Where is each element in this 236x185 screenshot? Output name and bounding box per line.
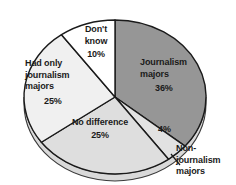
pie-label-journalism-majors: Journalism majors 36% (140, 57, 187, 95)
pie-label-non-journalism-majors-line3: majors (176, 166, 221, 178)
pie-label-no-difference: No difference 25% (62, 117, 138, 141)
pie-value-had-only-journalism-majors: 25% (44, 96, 70, 108)
pie-chart-figure: Journalism majors 36% Don't know 10% Had… (0, 0, 236, 185)
pie-label-non-journalism-majors: Non- journalism majors (176, 143, 221, 178)
pie-label-had-only-journalism-majors-line3: majors (25, 81, 70, 93)
pie-label-had-only-journalism-majors-line1: Had only (25, 58, 70, 70)
pie-label-dont-know-line1: Don't (74, 24, 118, 36)
pie-value-no-difference: 25% (62, 130, 138, 142)
pie-label-dont-know: Don't know 10% (74, 24, 118, 61)
pie-value-non-journalism-majors: 4% (158, 124, 171, 136)
pie-label-non-journalism-majors-line1: Non- (176, 143, 221, 155)
pie-label-journalism-majors-line2: majors (140, 69, 187, 81)
pie-value-non-journalism-majors-wrapper: 4% (158, 124, 171, 136)
pie-value-journalism-majors: 36% (155, 83, 187, 95)
pie-label-no-difference-line1: No difference (62, 117, 138, 129)
pie-label-non-journalism-majors-line2: journalism (176, 155, 221, 167)
pie-label-dont-know-line2: know (74, 36, 118, 48)
pie-label-had-only-journalism-majors: Had only journalism majors 25% (25, 58, 70, 107)
pie-value-dont-know: 10% (74, 49, 118, 61)
pie-label-had-only-journalism-majors-line2: journalism (25, 70, 70, 82)
pie-label-journalism-majors-line1: Journalism (140, 57, 187, 69)
